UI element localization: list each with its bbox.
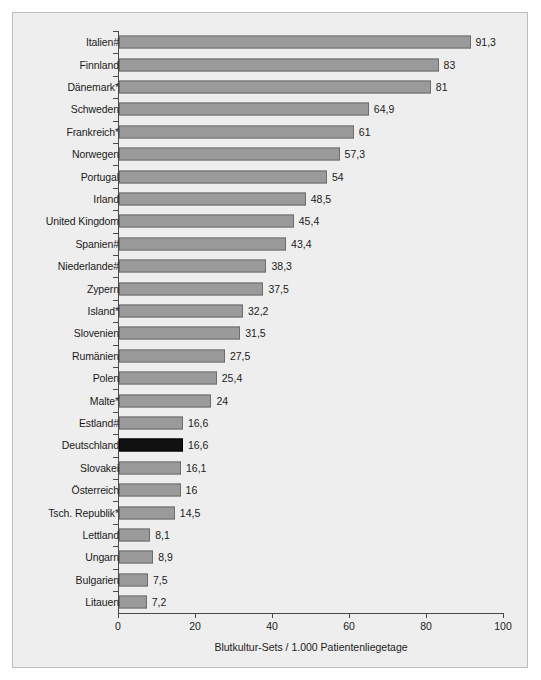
bar xyxy=(119,394,211,407)
bar-row: Litauen7,2 xyxy=(13,591,529,613)
bar-value-label: 25,4 xyxy=(222,372,242,384)
y-axis-tick xyxy=(113,546,118,547)
bar-value-label: 27,5 xyxy=(230,350,250,362)
bar-row: Niederlande#38,3 xyxy=(13,255,529,277)
bar-row: Frankreich*61 xyxy=(13,121,529,143)
bar-row: United Kingdom45,4 xyxy=(13,210,529,232)
bar-row: Slovakei16,1 xyxy=(13,457,529,479)
category-label: Frankreich* xyxy=(66,126,119,138)
bar xyxy=(119,282,263,295)
bar-value-label: 16,6 xyxy=(188,439,208,451)
bar-row: Rumänien27,5 xyxy=(13,345,529,367)
bar xyxy=(119,148,340,161)
chart-frame: Italien#91,3Finnland83Dänemark*81Schwede… xyxy=(12,12,528,668)
bar-value-label: 64,9 xyxy=(374,103,394,115)
bar xyxy=(119,215,294,228)
bar-row: Spanien#43,4 xyxy=(13,233,529,255)
bar-value-label: 83 xyxy=(444,59,456,71)
y-axis-tick xyxy=(113,233,118,234)
y-axis-tick xyxy=(113,98,118,99)
y-axis-tick xyxy=(113,76,118,77)
bar-value-label: 57,3 xyxy=(345,148,365,160)
bar-row: Ungarn8,9 xyxy=(13,546,529,568)
category-label: Lettland xyxy=(82,529,119,541)
bar-value-label: 54 xyxy=(332,171,344,183)
bar-row: Deutschland16,6 xyxy=(13,434,529,456)
bar xyxy=(119,506,175,519)
bar-row: Irland48,5 xyxy=(13,188,529,210)
category-label: Ungarn xyxy=(85,551,119,563)
bar-value-label: 16 xyxy=(186,484,198,496)
y-axis-tick xyxy=(113,300,118,301)
bar-row: Finnland83 xyxy=(13,53,529,75)
y-axis-tick xyxy=(113,188,118,189)
bar xyxy=(119,125,354,138)
category-label: United Kingdom xyxy=(46,215,119,227)
y-axis-tick xyxy=(113,210,118,211)
bar-chart-plot: Italien#91,3Finnland83Dänemark*81Schwede… xyxy=(13,13,529,669)
category-label: Spanien# xyxy=(75,238,119,250)
category-label: Malte* xyxy=(90,395,119,407)
y-axis-tick xyxy=(113,412,118,413)
category-label: Slovakei xyxy=(80,462,119,474)
bar-row: Polen25,4 xyxy=(13,367,529,389)
bar-row: Norwegen57,3 xyxy=(13,143,529,165)
bar-row: Portugal54 xyxy=(13,165,529,187)
y-axis-tick xyxy=(113,322,118,323)
y-axis-tick xyxy=(113,457,118,458)
y-axis-tick xyxy=(113,345,118,346)
category-label: Dänemark* xyxy=(67,81,119,93)
bar xyxy=(119,461,181,474)
x-axis-tick-label: 100 xyxy=(494,620,512,632)
bar-row: Italien#91,3 xyxy=(13,31,529,53)
y-axis-tick xyxy=(113,143,118,144)
bar xyxy=(119,327,240,340)
bar-row: Österreich16 xyxy=(13,479,529,501)
y-axis-tick xyxy=(113,121,118,122)
bar-value-label: 24 xyxy=(216,395,228,407)
bar xyxy=(119,260,266,273)
x-axis-tick-label: 60 xyxy=(343,620,355,632)
category-label: Irland xyxy=(93,193,119,205)
bar-value-label: 81 xyxy=(436,81,448,93)
bar-value-label: 45,4 xyxy=(299,215,319,227)
bar-value-label: 7,2 xyxy=(152,596,167,608)
category-label: Bulgarien xyxy=(76,574,119,586)
y-axis-tick xyxy=(113,479,118,480)
x-axis-tick xyxy=(503,613,504,618)
bar-row: Tsch. Republik*14,5 xyxy=(13,501,529,523)
bar xyxy=(119,596,147,609)
bar xyxy=(119,372,217,385)
bar-value-label: 43,4 xyxy=(291,238,311,250)
bar-row: Schweden64,9 xyxy=(13,98,529,120)
x-axis-tick-label: 0 xyxy=(115,620,121,632)
category-label: Schweden xyxy=(71,103,119,115)
category-label: Zypern xyxy=(87,283,119,295)
category-label: Tsch. Republik* xyxy=(48,507,119,519)
y-axis-tick xyxy=(113,255,118,256)
category-label: Niederlande# xyxy=(58,260,119,272)
y-axis-tick xyxy=(113,524,118,525)
category-label: Litauen xyxy=(85,596,119,608)
bar-value-label: 38,3 xyxy=(271,260,291,272)
bar xyxy=(119,416,183,429)
category-label: Slovenien xyxy=(74,327,119,339)
y-axis-tick xyxy=(113,501,118,502)
bar xyxy=(119,528,150,541)
x-axis-tick xyxy=(349,613,350,618)
y-axis-tick xyxy=(113,367,118,368)
bar-value-label: 16,1 xyxy=(186,462,206,474)
bar-row: Estland#16,6 xyxy=(13,412,529,434)
bar-value-label: 8,1 xyxy=(155,529,170,541)
bar-row: Island*32,2 xyxy=(13,300,529,322)
y-axis-tick xyxy=(113,53,118,54)
bar-row: Zypern37,5 xyxy=(13,277,529,299)
x-axis-title: Blutkultur-Sets / 1.000 Patientenliegeta… xyxy=(118,641,504,653)
bar-value-label: 32,2 xyxy=(248,305,268,317)
bar-row: Malte*24 xyxy=(13,389,529,411)
bar xyxy=(119,170,327,183)
x-axis-tick xyxy=(272,613,273,618)
category-label: Finnland xyxy=(80,59,119,71)
x-axis-tick xyxy=(195,613,196,618)
category-label: Estland# xyxy=(79,417,119,429)
